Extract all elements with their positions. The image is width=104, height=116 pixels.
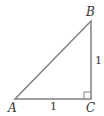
vertex-label-a: A [7,101,17,115]
vertex-label-b: B [85,5,95,19]
triangle-abc [15,21,91,99]
side-label-ac: 1 [50,100,57,113]
side-label-bc: 1 [95,54,102,67]
triangle-diagram: A B C 1 1 [0,0,104,116]
vertex-label-c: C [86,101,95,115]
right-angle-marker [84,92,91,99]
